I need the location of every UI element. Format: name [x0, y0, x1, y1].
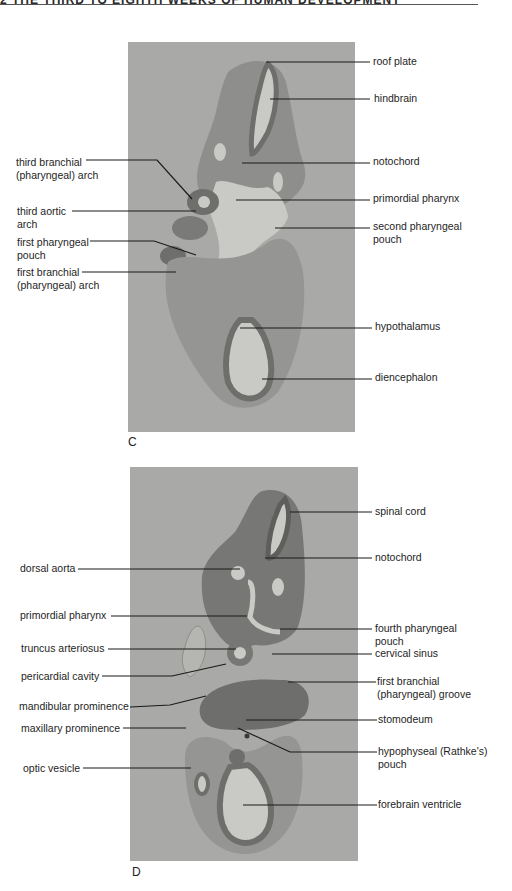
panel-letter-c: C — [128, 435, 137, 449]
label-primordial-pharynx-c: primordial pharynx — [373, 192, 459, 205]
label-dorsal-aorta: dorsal aorta — [20, 562, 75, 575]
label-roof-plate: roof plate — [373, 55, 417, 68]
label-first-branchial-groove: first branchial (pharyngeal) groove — [377, 675, 471, 701]
label-first-branchial-arch: first branchial (pharyngeal) arch — [17, 266, 99, 292]
label-hindbrain: hindbrain — [374, 92, 417, 105]
header-rule — [0, 4, 478, 5]
label-first-pharyngeal-pouch: first pharyngeal pouch — [17, 236, 89, 262]
label-forebrain-ventricle: forebrain ventricle — [378, 798, 461, 811]
label-pericardial-cavity: pericardial cavity — [21, 670, 99, 683]
label-cervical-sinus: cervical sinus — [375, 647, 438, 660]
micrograph-c-image — [128, 42, 355, 432]
label-diencephalon: diencephalon — [375, 371, 437, 384]
label-hypophyseal-pouch: hypophyseal (Rathke's) pouch — [378, 745, 487, 771]
label-truncus-arteriosus: truncus arteriosus — [21, 642, 104, 655]
label-notochord-d: notochord — [375, 551, 422, 564]
label-third-branchial-arch: third branchial (pharyngeal) arch — [16, 156, 98, 182]
label-hypothalamus: hypothalamus — [375, 320, 440, 333]
label-second-pharyngeal-pouch: second pharyngeal pouch — [373, 220, 462, 246]
label-fourth-pharyngeal-pouch: fourth pharyngeal pouch — [375, 622, 457, 648]
micrograph-d-image — [130, 467, 358, 861]
label-stomodeum: stomodeum — [378, 713, 433, 726]
label-maxillary-prominence: maxillary prominence — [21, 722, 120, 735]
label-primordial-pharynx-d: primordial pharynx — [20, 609, 106, 622]
label-third-aortic-arch: third aortic arch — [17, 205, 66, 231]
label-mandibular-prominence: mandibular prominence — [19, 700, 129, 713]
label-spinal-cord: spinal cord — [375, 505, 426, 518]
micrograph-panel-d — [130, 467, 358, 861]
micrograph-panel-c — [128, 42, 355, 432]
label-notochord-c: notochord — [373, 155, 420, 168]
panel-letter-d: D — [132, 865, 141, 879]
label-optic-vesicle: optic vesicle — [23, 762, 80, 775]
